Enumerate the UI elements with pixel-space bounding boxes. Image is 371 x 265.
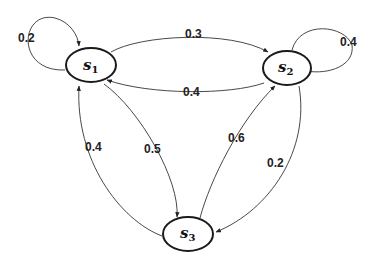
edge-s1-s3 bbox=[104, 84, 177, 217]
edge-s3-s1 bbox=[79, 86, 162, 236]
edge-label-s2-s1: 0.4 bbox=[183, 85, 200, 99]
edge-label-s1-s1: 0.2 bbox=[18, 31, 35, 45]
edge-label-s2-s2: 0.4 bbox=[340, 35, 357, 49]
node-s3: s3 bbox=[163, 217, 213, 251]
edge-s2-s3 bbox=[216, 86, 301, 232]
node-s2: s2 bbox=[263, 51, 311, 85]
edge-label-s1-s3: 0.5 bbox=[144, 142, 161, 156]
node-s1: s1 bbox=[66, 48, 116, 82]
edge-label-s3-s2: 0.6 bbox=[228, 131, 245, 145]
markov-chain-diagram: 0.2 0.3 0.4 0.4 0.4 0.5 0.6 0.2 s1 s2 s3 bbox=[0, 0, 371, 265]
edge-label-s3-s1: 0.4 bbox=[85, 140, 102, 154]
edge-label-s2-s3: 0.2 bbox=[267, 156, 284, 170]
edge-label-s1-s2: 0.3 bbox=[185, 27, 202, 41]
